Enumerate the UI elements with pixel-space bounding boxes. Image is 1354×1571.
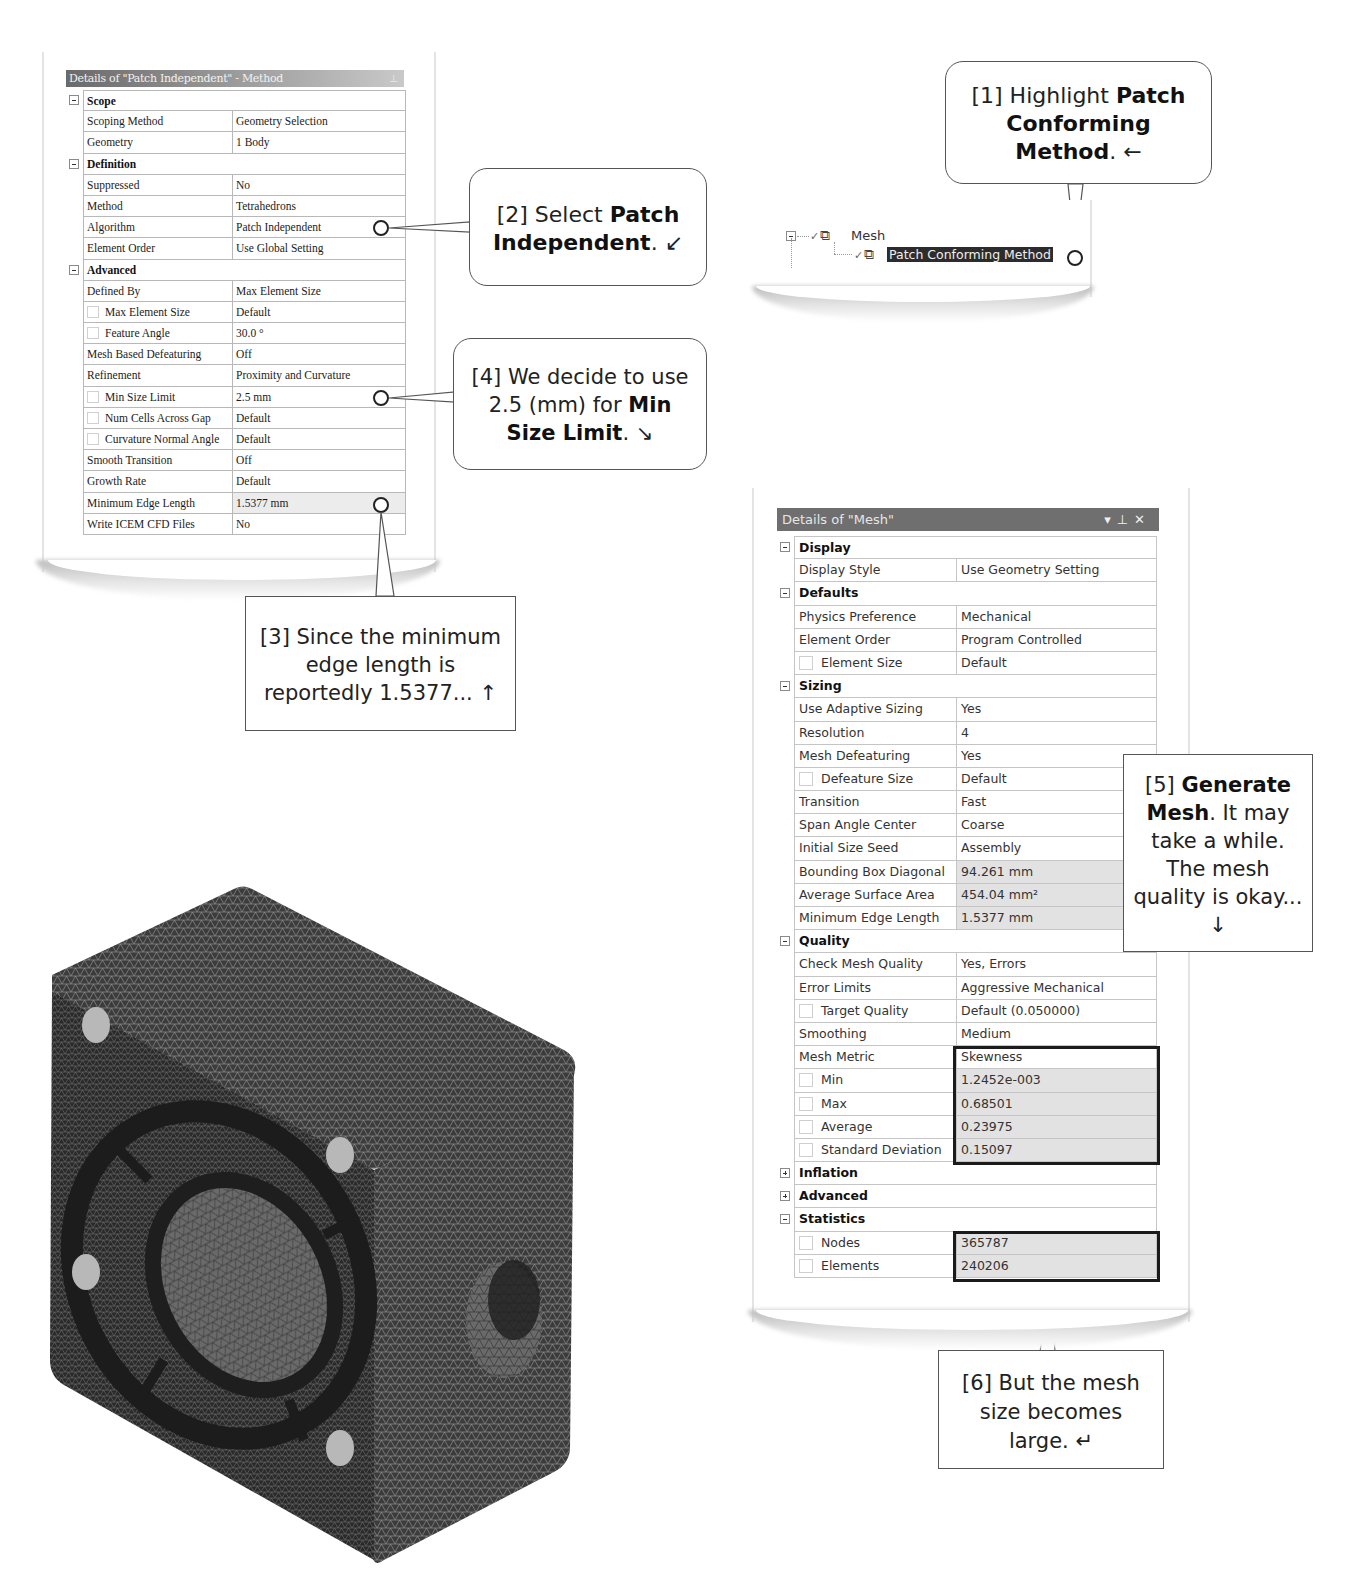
prop-key: Physics Preference — [799, 609, 916, 624]
prop-row-physics-preference[interactable]: Physics PreferenceMechanical — [777, 606, 1157, 629]
prop-key: Max — [821, 1096, 847, 1111]
callout-step-6: [6] But the mesh size becomes large. ↵ — [938, 1350, 1164, 1469]
prop-key: Initial Size Seed — [799, 840, 898, 855]
parameter-checkbox[interactable] — [799, 1143, 813, 1157]
anchor-tree-selection — [1067, 250, 1083, 266]
group-display[interactable]: Display — [777, 536, 1157, 559]
prop-row-bounding-box-diagonal[interactable]: Bounding Box Diagonal94.261 mm — [777, 861, 1157, 884]
collapse-icon[interactable] — [780, 1214, 790, 1224]
prop-row-mesh-defeaturing[interactable]: Mesh DefeaturingYes — [777, 745, 1157, 768]
group-label: Inflation — [795, 1162, 1156, 1184]
prop-row-average-surface-area[interactable]: Average Surface Area454.04 mm² — [777, 884, 1157, 907]
prop-value[interactable]: Aggressive Mechanical — [957, 977, 1156, 999]
prop-key: Use Adaptive Sizing — [799, 701, 923, 716]
group-label: Display — [795, 537, 1156, 558]
parameter-checkbox[interactable] — [799, 1073, 813, 1087]
prop-row-check-mesh-quality[interactable]: Check Mesh QualityYes, Errors — [777, 953, 1157, 976]
prop-key: Bounding Box Diagonal — [799, 864, 945, 879]
prop-key: Target Quality — [821, 1003, 908, 1018]
callout-step-2: [2] Select Patch Independent. ↙ — [469, 168, 707, 286]
quality-metrics-highlight-box — [953, 1046, 1160, 1165]
prop-row-display-style[interactable]: Display StyleUse Geometry Setting — [777, 559, 1157, 582]
prop-key: Resolution — [799, 725, 864, 740]
prop-row-initial-size-seed[interactable]: Initial Size SeedAssembly — [777, 837, 1157, 860]
group-sizing[interactable]: Sizing — [777, 675, 1157, 698]
prop-row-smoothing[interactable]: SmoothingMedium — [777, 1023, 1157, 1046]
prop-key: Mesh Defeaturing — [799, 748, 910, 763]
prop-row-element-order[interactable]: Element OrderProgram Controlled — [777, 629, 1157, 652]
prop-key: Smoothing — [799, 1026, 867, 1041]
callout-step-1: [1] Highlight Patch Conforming Method. ← — [945, 61, 1212, 184]
statistics-highlight-box — [953, 1231, 1160, 1282]
prop-key: Defeature Size — [821, 771, 913, 786]
prop-row-target-quality[interactable]: Target QualityDefault (0.050000) — [777, 1000, 1157, 1023]
prop-key: Check Mesh Quality — [799, 956, 923, 971]
group-inflation[interactable]: Inflation — [777, 1162, 1157, 1185]
prop-row-defeature-size[interactable]: Defeature SizeDefault — [777, 768, 1157, 791]
group-label: Quality — [795, 930, 1156, 952]
group-label: Sizing — [795, 675, 1156, 697]
prop-value[interactable]: Yes — [957, 698, 1156, 720]
collapse-icon[interactable] — [780, 681, 790, 691]
collapse-icon[interactable] — [780, 588, 790, 598]
mesh-panel-title: Details of "Mesh" — [782, 512, 894, 527]
expand-icon[interactable] — [780, 1168, 790, 1178]
group-advanced[interactable]: Advanced — [777, 1185, 1157, 1208]
mesh-details-table: DisplayDisplay StyleUse Geometry Setting… — [777, 536, 1157, 1278]
prop-row-resolution[interactable]: Resolution4 — [777, 722, 1157, 745]
prop-value[interactable]: Mechanical — [957, 606, 1156, 628]
prop-key: Mesh Metric — [799, 1049, 875, 1064]
prop-key: Min — [821, 1072, 843, 1087]
check-icon: ✓ — [854, 249, 863, 262]
prop-value[interactable]: Default — [957, 652, 1156, 674]
prop-key: Elements — [821, 1258, 879, 1273]
dropdown-icon[interactable]: ▾ — [1104, 512, 1117, 527]
prop-key: Average Surface Area — [799, 887, 935, 902]
collapse-icon[interactable] — [780, 542, 790, 552]
prop-row-span-angle-center[interactable]: Span Angle CenterCoarse — [777, 814, 1157, 837]
prop-key: Nodes — [821, 1235, 860, 1250]
prop-key: Minimum Edge Length — [799, 910, 939, 925]
prop-value[interactable]: Default (0.050000) — [957, 1000, 1156, 1022]
prop-row-use-adaptive-sizing[interactable]: Use Adaptive SizingYes — [777, 698, 1157, 721]
prop-value[interactable]: Medium — [957, 1023, 1156, 1045]
prop-key: Average — [821, 1119, 872, 1134]
group-defaults[interactable]: Defaults — [777, 582, 1157, 605]
meshed-fan-housing-3d-model — [44, 880, 584, 1570]
prop-key: Element Order — [799, 632, 890, 647]
prop-key: Standard Deviation — [821, 1142, 942, 1157]
parameter-checkbox[interactable] — [799, 1097, 813, 1111]
parameter-checkbox[interactable] — [799, 656, 813, 670]
group-label: Defaults — [795, 582, 1156, 604]
pin-icon[interactable]: ⊥ — [1117, 512, 1134, 527]
method-cube-icon: ⧉ — [864, 246, 874, 263]
collapse-icon[interactable] — [780, 936, 790, 946]
parameter-checkbox[interactable] — [799, 1004, 813, 1018]
prop-value[interactable]: 4 — [957, 722, 1156, 744]
prop-value[interactable]: Program Controlled — [957, 629, 1156, 651]
tree-label-patch-conforming[interactable]: Patch Conforming Method — [887, 247, 1053, 262]
prop-row-transition[interactable]: TransitionFast — [777, 791, 1157, 814]
mesh-panel-title-bar: Details of "Mesh" ▾⊥✕ — [777, 508, 1159, 531]
group-label: Statistics — [795, 1208, 1156, 1230]
prop-value[interactable]: Use Geometry Setting — [957, 559, 1156, 581]
prop-key: Element Size — [821, 655, 902, 670]
prop-key: Span Angle Center — [799, 817, 916, 832]
group-label: Advanced — [795, 1185, 1156, 1207]
prop-row-error-limits[interactable]: Error LimitsAggressive Mechanical — [777, 977, 1157, 1000]
prop-row-element-size[interactable]: Element SizeDefault — [777, 652, 1157, 675]
parameter-checkbox[interactable] — [799, 1259, 813, 1273]
prop-row-minimum-edge-length[interactable]: Minimum Edge Length1.5377 mm — [777, 907, 1157, 930]
expand-icon[interactable] — [780, 1191, 790, 1201]
parameter-checkbox[interactable] — [799, 1120, 813, 1134]
prop-key: Display Style — [799, 562, 880, 577]
prop-key: Transition — [799, 794, 859, 809]
parameter-checkbox[interactable] — [799, 772, 813, 786]
check-icon: ✓ — [810, 230, 819, 243]
group-statistics[interactable]: Statistics — [777, 1208, 1157, 1231]
prop-value[interactable]: Yes, Errors — [957, 953, 1156, 975]
parameter-checkbox[interactable] — [799, 1236, 813, 1250]
callout-step-4: [4] We decide to use 2.5 (mm) for Min Si… — [453, 338, 707, 470]
close-icon[interactable]: ✕ — [1134, 512, 1151, 527]
group-quality[interactable]: Quality — [777, 930, 1157, 953]
